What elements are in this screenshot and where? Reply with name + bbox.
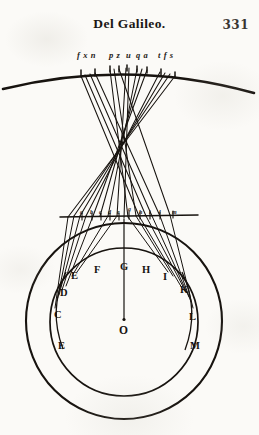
chord-label-7: i bbox=[149, 209, 151, 215]
ray-label-3: q a bbox=[136, 50, 148, 60]
point-label-L-8: L bbox=[189, 311, 196, 322]
document-page: Del Galileo. 331 f x np zuq at f s bbox=[0, 0, 259, 435]
chord-label-6: h bbox=[139, 209, 142, 215]
ray-label-0: f x n bbox=[77, 50, 96, 60]
point-label-I-5: I bbox=[163, 271, 167, 282]
point-label-E-1: E bbox=[71, 270, 78, 281]
point-label-K-6: K bbox=[180, 284, 188, 295]
chord-label-3: d bbox=[108, 209, 111, 215]
chord-label-9: m bbox=[172, 209, 177, 215]
point-label-E-9: E bbox=[58, 340, 65, 351]
ray-label-4: t f s bbox=[158, 50, 174, 60]
point-label-D-0: D bbox=[60, 287, 68, 298]
centre-point bbox=[122, 318, 125, 321]
point-label-H-4: H bbox=[142, 264, 150, 275]
chord-label-8: l bbox=[159, 209, 161, 215]
optical-diagram bbox=[0, 0, 259, 435]
ray-label-2: u bbox=[126, 50, 131, 60]
diagram-ink bbox=[3, 65, 254, 419]
point-label-M-10: M bbox=[190, 340, 200, 351]
chord-label-0: a bbox=[80, 209, 83, 215]
point-label-C-7: C bbox=[54, 309, 62, 320]
chord-label-2: c bbox=[99, 209, 102, 215]
ray-label-row: f x np zuq at f s bbox=[0, 50, 259, 64]
point-label-F-2: F bbox=[94, 264, 100, 275]
page-title: Del Galileo. bbox=[0, 16, 259, 32]
chord-label-4: e bbox=[117, 209, 120, 215]
page-header: Del Galileo. 331 bbox=[0, 16, 259, 38]
chord-label-5: g bbox=[128, 206, 131, 212]
point-label-O-11: O bbox=[119, 324, 128, 336]
chord-label-1: b bbox=[90, 209, 93, 215]
ray-bundle bbox=[68, 68, 175, 218]
point-label-G-3: G bbox=[120, 261, 128, 272]
folio-number: 331 bbox=[222, 18, 249, 32]
ray-label-1: p z bbox=[109, 50, 120, 60]
